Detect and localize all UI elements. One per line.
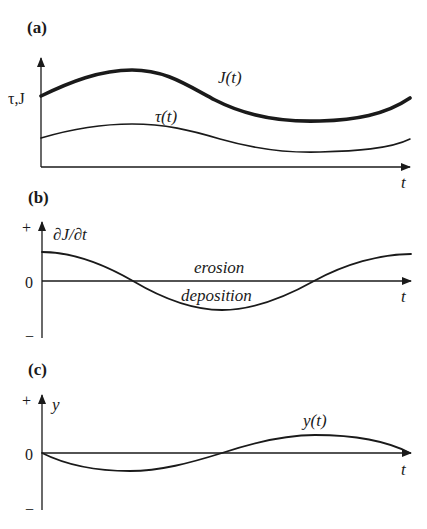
deposition-label: deposition bbox=[181, 286, 252, 305]
panel-c: (c) + 0 − y t y(t) bbox=[22, 360, 411, 518]
minus-label-b: − bbox=[25, 328, 34, 345]
plus-label-b: + bbox=[22, 219, 31, 236]
panel-b: (b) + 0 − ∂J/∂t t erosion deposition bbox=[22, 188, 411, 345]
panel-a-label: (a) bbox=[27, 18, 47, 37]
y-curve-label: y(t) bbox=[301, 411, 327, 430]
minus-label-c: − bbox=[25, 501, 34, 518]
y-axis-label-a: τ,J bbox=[8, 90, 25, 107]
panel-b-label: (b) bbox=[28, 188, 49, 207]
figure-canvas: (a) τ,J t J(t) τ(t) (b) + 0 − ∂J/∂t t er… bbox=[0, 0, 427, 529]
panel-a: (a) τ,J t J(t) τ(t) bbox=[8, 18, 410, 192]
zero-label-c: 0 bbox=[25, 446, 33, 463]
j-curve-label: J(t) bbox=[218, 68, 242, 87]
zero-label-b: 0 bbox=[25, 274, 33, 291]
erosion-label: erosion bbox=[194, 258, 244, 277]
x-axis-label-a: t bbox=[401, 173, 407, 192]
tau-curve bbox=[41, 124, 410, 152]
y-axis-label-c: y bbox=[50, 395, 60, 414]
x-axis-label-b: t bbox=[401, 287, 407, 306]
tau-curve-label: τ(t) bbox=[155, 107, 177, 126]
panel-c-label: (c) bbox=[28, 360, 47, 379]
plus-label-c: + bbox=[22, 392, 31, 409]
x-axis-label-c: t bbox=[401, 460, 407, 479]
y-axis-label-b: ∂J/∂t bbox=[53, 225, 88, 244]
